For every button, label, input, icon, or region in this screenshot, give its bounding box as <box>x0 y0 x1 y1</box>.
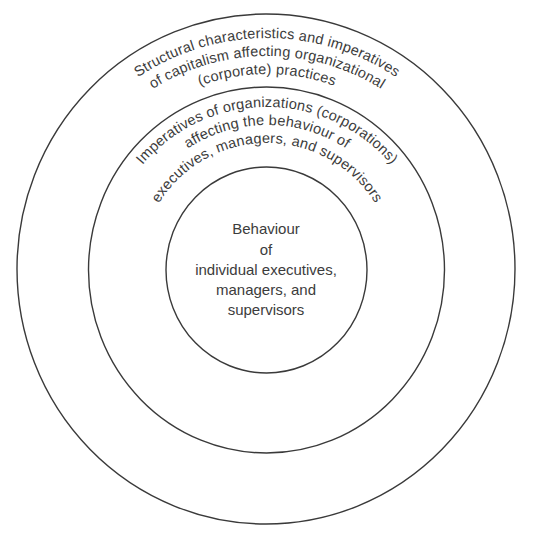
inner-label-line-4: managers, and <box>216 281 316 298</box>
inner-label-line-3: individual executives, <box>195 261 337 278</box>
middle-ring-label: Imperatives of organizations (corporatio… <box>133 94 402 205</box>
diagram-canvas: Structural characteristics and imperativ… <box>0 0 539 539</box>
inner-label-line-5: supervisors <box>228 301 305 318</box>
outer-label-line-3: (corporate) practices <box>196 61 339 89</box>
inner-circle-label: Behaviour of individual executives, mana… <box>195 220 337 318</box>
outer-ring-label: Structural characteristics and imperativ… <box>131 25 403 92</box>
inner-label-line-1: Behaviour <box>232 220 300 237</box>
concentric-circles-diagram: Structural characteristics and imperativ… <box>0 0 539 539</box>
inner-label-line-2: of <box>260 241 273 258</box>
